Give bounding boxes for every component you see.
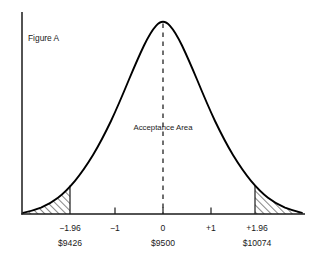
value-label-center: $9500 [151, 238, 175, 248]
figure-caption: Figure A [28, 33, 60, 43]
dollar-value-axis-labels: $9426 $9500 $10074 [58, 238, 272, 248]
z-label-left-critical: −1.96 [59, 223, 81, 233]
distribution-chart-svg: Figure A Acceptance Area −1.96 −1 0 +1 +… [0, 0, 316, 258]
right-tail-hatching [250, 180, 308, 216]
normal-distribution-figure: Figure A Acceptance Area −1.96 −1 0 +1 +… [0, 0, 316, 258]
z-label-right-critical: +1.96 [246, 223, 268, 233]
right-rejection-region [250, 180, 308, 216]
value-label-left: $9426 [58, 238, 82, 248]
axis-tick-marks [115, 208, 211, 215]
left-tail-hatching [20, 180, 75, 216]
z-label-plus-one: +1 [206, 223, 216, 233]
value-label-right: $10074 [243, 238, 272, 248]
z-label-minus-one: −1 [110, 223, 120, 233]
acceptance-area-label: Acceptance Area [134, 123, 194, 132]
left-rejection-region [20, 180, 75, 216]
z-label-zero: 0 [161, 223, 166, 233]
z-score-axis-labels: −1.96 −1 0 +1 +1.96 [59, 223, 268, 233]
